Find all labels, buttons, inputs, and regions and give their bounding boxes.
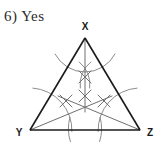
arc-centered-z — [98, 88, 137, 131]
worksheet-figure-page: 6) Yes — [0, 0, 162, 152]
side-xy — [30, 38, 85, 130]
vertex-label-x: X — [82, 21, 89, 32]
vertex-label-y: Y — [16, 127, 23, 138]
triangle-construction-figure: X Y Z — [0, 0, 162, 152]
side-xz — [85, 38, 140, 130]
arc-centered-y — [33, 88, 72, 131]
vertex-label-z: Z — [147, 127, 153, 138]
angle-bisectors — [30, 38, 140, 130]
